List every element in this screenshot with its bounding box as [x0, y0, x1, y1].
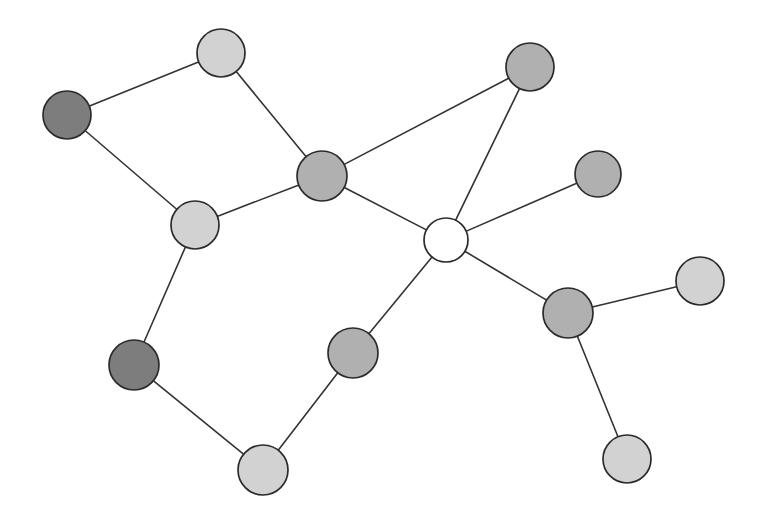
node-layer	[43, 29, 724, 495]
graph-edge	[278, 372, 339, 451]
graph-node-n13[interactable]	[238, 445, 288, 495]
graph-node-n4[interactable]	[171, 201, 219, 249]
graph-edge	[216, 185, 299, 217]
graph-edge	[464, 251, 547, 301]
graph-node-n8[interactable]	[676, 257, 724, 305]
graph-edge	[465, 183, 578, 232]
graph-edge	[591, 286, 677, 307]
graph-edge	[577, 335, 618, 437]
graph-edge	[455, 88, 520, 221]
graph-node-n10[interactable]	[603, 435, 651, 483]
graph-edge	[343, 78, 509, 165]
graph-node-n5[interactable]	[506, 43, 554, 91]
graph-edge	[144, 246, 186, 343]
network-graph-svg	[0, 0, 760, 516]
graph-node-n1[interactable]	[197, 29, 245, 77]
graph-node-n6[interactable]	[424, 218, 468, 262]
graph-node-n3[interactable]	[297, 151, 347, 201]
graph-edge	[236, 71, 307, 158]
graph-edge	[153, 380, 245, 455]
graph-node-n9[interactable]	[543, 288, 593, 338]
graph-node-n7[interactable]	[575, 151, 621, 197]
graph-edge	[368, 256, 432, 334]
edge-layer	[84, 62, 677, 455]
graph-node-n12[interactable]	[109, 340, 159, 390]
graph-edge	[343, 187, 427, 230]
graph-edge	[84, 130, 177, 210]
graph-node-n11[interactable]	[328, 328, 378, 378]
network-graph-canvas	[0, 0, 760, 516]
graph-edge	[88, 62, 199, 107]
graph-node-n2[interactable]	[43, 91, 91, 139]
